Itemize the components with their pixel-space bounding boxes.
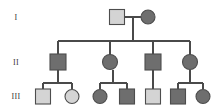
individual-III-1-male-unaffected[interactable] (36, 89, 51, 104)
generation-label-2: II (13, 58, 19, 67)
generation-labels: I II III (12, 13, 21, 101)
individual-I-1-male-unaffected[interactable] (110, 10, 125, 25)
individual-III-6-male-affected[interactable] (171, 89, 186, 104)
individual-III-4-male-affected[interactable] (120, 89, 135, 104)
individual-III-2-female-unaffected[interactable] (65, 90, 79, 104)
connector-lines (43, 17, 203, 89)
generation-label-3: III (12, 92, 21, 101)
generation-III-individuals (36, 89, 211, 104)
generation-II-individuals (50, 54, 198, 70)
individual-II-4-female-affected[interactable] (183, 55, 198, 70)
generation-label-1: I (15, 13, 18, 22)
individual-II-1-male-affected[interactable] (50, 54, 66, 70)
individual-III-3-female-affected[interactable] (93, 90, 107, 104)
individual-II-2-female-affected[interactable] (103, 55, 118, 70)
pedigree-chart: I II III (0, 0, 222, 112)
pedigree-canvas: I II III (0, 0, 222, 112)
individual-III-5-male-unaffected[interactable] (146, 89, 161, 104)
individual-II-3-male-affected[interactable] (145, 54, 161, 70)
individual-III-7-female-affected[interactable] (196, 90, 210, 104)
individual-I-2-female-affected[interactable] (141, 10, 155, 24)
